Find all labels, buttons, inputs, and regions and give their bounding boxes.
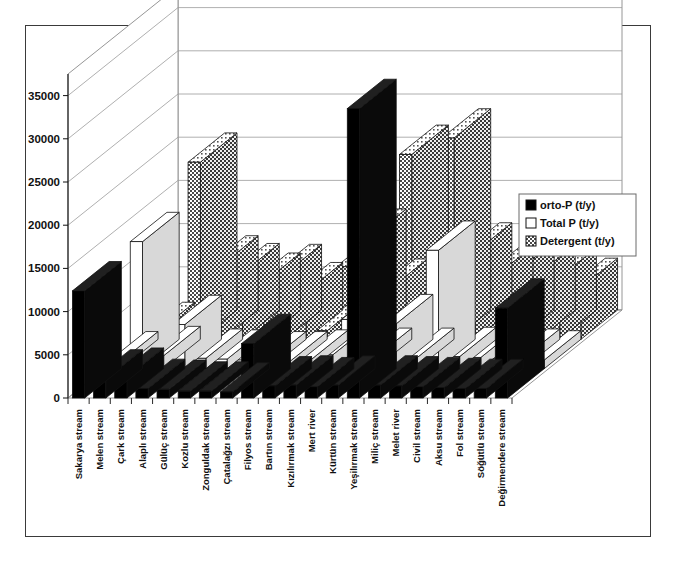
x-axis-tick-label: Yeşilırmak stream	[348, 409, 359, 490]
legend-swatch-dotted-gray	[526, 236, 536, 246]
y-axis-tick-label: 15000	[28, 262, 60, 274]
y-axis-tick-label: 5000	[34, 349, 60, 361]
y-axis-tick-label: 35000	[28, 90, 60, 102]
y-axis-tick-label: 10000	[28, 306, 60, 318]
x-axis-tick-label: Filyos stream	[242, 409, 253, 470]
y-axis-tick-label: 20000	[28, 219, 60, 231]
legend-label: orto-P (t/y)	[540, 199, 596, 211]
x-axis-tick-label: Kozlu stream	[179, 409, 190, 469]
x-axis-tick-label: Kızılırmak stream	[285, 409, 296, 488]
x-axis-tick-label: Melet river	[390, 409, 401, 457]
x-axis-tick-label: Söğütlü stream	[475, 409, 486, 478]
legend-label: Total P (t/y)	[540, 217, 599, 229]
x-axis-tick-label: Sakarya stream	[73, 409, 84, 479]
x-axis-tick-label: Zonguldak stream	[200, 409, 211, 491]
legend-swatch-solid-black	[526, 200, 536, 210]
legend-swatch-white	[526, 218, 536, 228]
x-axis-tick-label: Değirmendere stream	[496, 409, 507, 507]
y-axis-tick-label: 0	[54, 392, 60, 404]
y-axis-tick-label: 25000	[28, 176, 60, 188]
x-axis-tick-label: Melen stream	[94, 409, 105, 470]
x-axis-tick-label: Çark stream	[115, 409, 126, 464]
x-axis-tick-label: Aksu stream	[433, 409, 444, 466]
bar-orto-p-14	[347, 79, 396, 398]
x-axis-tick-label: Çatalağzı stream	[221, 409, 232, 485]
x-axis-tick-label: Fol stream	[454, 409, 465, 457]
x-axis-tick-label: Civil stream	[411, 409, 422, 463]
x-axis-tick-label: Mert river	[306, 409, 317, 453]
x-axis-tick-label: Kürtün stream	[327, 409, 338, 474]
figure-container: 05000100001500020000250003000035000 Saka…	[0, 0, 678, 564]
x-axis-tick-label: Bartın stream	[263, 409, 274, 470]
x-axis-tick-label: Miliç stream	[369, 409, 380, 464]
x-axis-tick-label: Gülüç stream	[158, 409, 169, 470]
legend-label: Detergent (t/y)	[540, 235, 615, 247]
x-axis-tick-label: Alaplı stream	[137, 409, 148, 469]
bar-chart-3d: 05000100001500020000250003000035000 Saka…	[0, 0, 678, 564]
y-axis-tick-label: 30000	[28, 133, 60, 145]
